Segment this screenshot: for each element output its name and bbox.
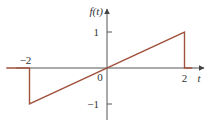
- x-tick-label: 0: [97, 71, 103, 83]
- chart: 1−1−202tf(t): [0, 0, 209, 120]
- axes: [16, 9, 204, 120]
- x-tick-label: −2: [20, 54, 32, 66]
- x-axis-label: t: [197, 72, 201, 84]
- y-tick-label: −1: [87, 98, 99, 110]
- x-tick-label: 2: [182, 72, 188, 84]
- y-axis-label: f(t): [90, 5, 104, 18]
- y-tick-label: 1: [94, 26, 100, 38]
- labels: 1−1−202tf(t): [20, 5, 202, 110]
